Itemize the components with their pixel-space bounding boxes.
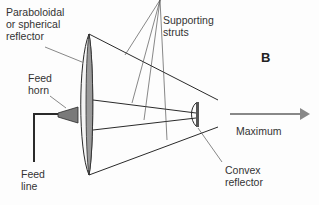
convex-reflector-face — [196, 102, 199, 127]
convex-reflector — [192, 103, 197, 126]
cassegrain-antenna-diagram: Paraboloidal or spherical reflector Supp… — [0, 0, 319, 205]
reflector-label: Paraboloidal or spherical reflector — [6, 6, 64, 42]
arrow-head — [300, 108, 310, 120]
struts-label: Supporting struts — [163, 14, 214, 38]
convex-reflector-label: Convex reflector — [225, 164, 263, 188]
main-reflector-face — [86, 34, 93, 175]
panel-letter: B — [261, 52, 270, 64]
feed-line-label: Feed line — [21, 168, 45, 192]
feed-line — [34, 114, 58, 162]
maximum-label: Maximum — [236, 125, 282, 137]
feed-horn — [58, 107, 78, 123]
feed-horn-label: Feed horn — [28, 72, 52, 96]
